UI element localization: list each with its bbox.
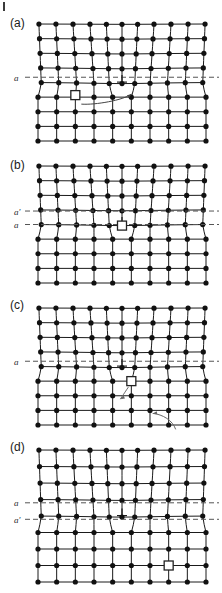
slip-line-left-label: a (14, 498, 19, 508)
square-marker (118, 221, 127, 230)
panel-c-lattice: ab (0, 288, 222, 434)
figure-edge-dislocation-motion: (a) ab (b) a′b′ab (c) ab (d) aba′b′ (0, 0, 222, 593)
slip-line-left-label: a (14, 73, 19, 83)
slip-line-left-label: a′ (14, 515, 22, 525)
slip-line-left-label: a′ (14, 207, 22, 217)
panel-b-lattice: a′b′ab (0, 146, 222, 292)
square-marker (164, 561, 173, 570)
slip-line-left-label: a (14, 357, 19, 367)
panel-d: (d) aba′b′ (0, 430, 222, 593)
panel-d-lattice: aba′b′ (0, 430, 222, 593)
panel-a: (a) ab (0, 0, 222, 146)
square-marker (127, 377, 136, 386)
panel-b: (b) a′b′ab (0, 146, 222, 292)
panel-a-lattice: ab (0, 0, 222, 146)
panel-c: (c) ab (0, 288, 222, 434)
slip-line-left-label: a (14, 220, 19, 230)
square-marker (71, 91, 80, 100)
